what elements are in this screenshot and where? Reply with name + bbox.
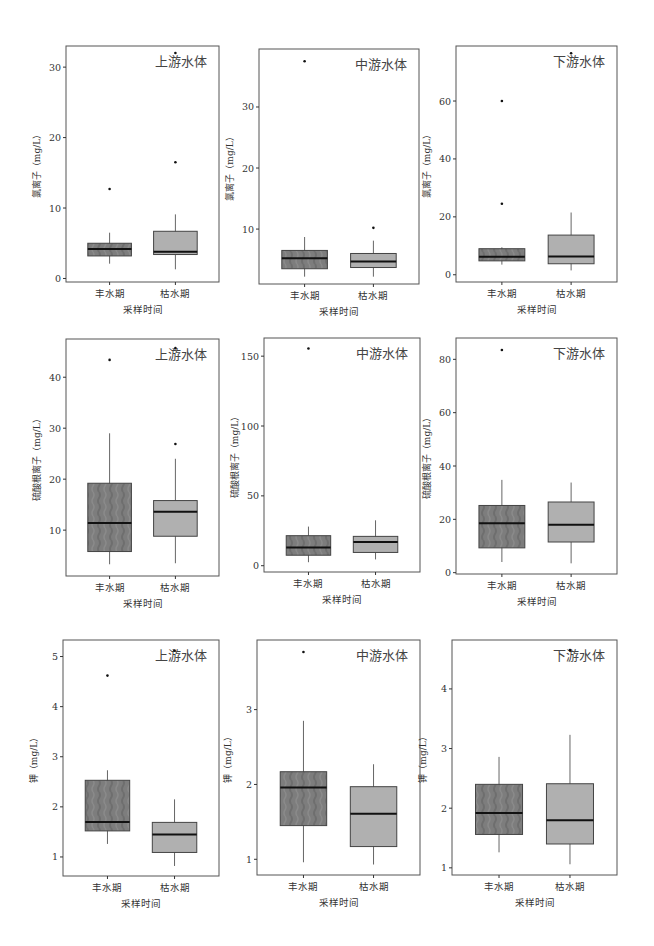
y-tick-label: 100	[241, 421, 259, 432]
x-tick-label: 丰水期	[487, 288, 517, 299]
y-tick-label: 50	[247, 490, 259, 501]
x-tick-label: 丰水期	[290, 290, 320, 301]
y-tick-label: 4	[52, 701, 58, 712]
iqr-box	[546, 784, 593, 844]
y-tick-label: 20	[439, 211, 451, 222]
boxplot-panel: 0204060氯离子（mg/L）下游水体丰水期枯水期采样时间	[421, 46, 617, 315]
outlier-point	[372, 227, 375, 230]
y-tick-label: 3	[52, 751, 58, 762]
y-tick-label: 4	[441, 683, 447, 694]
x-tick-label: 枯水期	[359, 881, 389, 892]
y-tick-label: 40	[439, 153, 451, 164]
x-tick-label: 丰水期	[293, 578, 323, 589]
y-tick-label: 10	[49, 203, 61, 214]
iqr-box	[280, 772, 326, 826]
iqr-box	[286, 536, 330, 556]
y-tick-label: 10	[49, 525, 61, 536]
y-tick-label: 2	[52, 801, 58, 812]
x-axis-label: 采样时间	[322, 594, 362, 605]
y-tick-label: 3	[441, 743, 447, 754]
y-axis-label: 硫酸根离子（mg/L）	[229, 412, 240, 498]
boxplot-panel: 12345钾（mg/L）上游水体丰水期枯水期采样时间	[28, 640, 219, 909]
iqr-box	[350, 787, 396, 847]
iqr-box	[479, 505, 525, 547]
iqr-box	[548, 235, 594, 264]
x-axis-label: 采样时间	[123, 598, 163, 609]
x-tick-label: 丰水期	[484, 881, 514, 892]
panel-title: 上游水体	[155, 347, 207, 362]
y-tick-label: 40	[49, 372, 61, 383]
y-tick-label: 150	[241, 351, 259, 362]
y-tick-label: 30	[242, 101, 254, 112]
y-tick-label: 1	[246, 854, 252, 865]
y-tick-label: 60	[439, 96, 451, 107]
x-axis-label: 采样时间	[319, 306, 359, 317]
boxplot-figure-grid: 0102030氯离子（mg/L）上游水体丰水期枯水期采样时间102030氯离子（…	[0, 0, 654, 946]
outlier-point	[108, 359, 111, 362]
y-tick-label: 30	[49, 62, 61, 73]
y-axis-label: 钾（mg/L）	[222, 732, 233, 782]
panel-title: 上游水体	[155, 54, 207, 69]
iqr-box	[88, 483, 132, 551]
x-tick-label: 丰水期	[95, 582, 125, 593]
iqr-box	[353, 536, 397, 552]
x-axis-label: 采样时间	[319, 897, 359, 908]
y-tick-label: 1	[52, 851, 58, 862]
y-tick-label: 30	[49, 423, 61, 434]
y-tick-label: 0	[445, 269, 451, 280]
x-axis-label: 采样时间	[121, 898, 161, 909]
outlier-point	[108, 188, 111, 191]
panel-title: 上游水体	[155, 648, 207, 663]
x-tick-label: 丰水期	[92, 882, 122, 893]
x-tick-label: 枯水期	[556, 288, 586, 299]
x-axis-label: 采样时间	[517, 596, 557, 607]
y-tick-label: 2	[441, 803, 447, 814]
iqr-box	[548, 502, 594, 542]
panel-title: 中游水体	[355, 57, 407, 72]
boxplot-panel: 1234钾（mg/L）下游水体丰水期枯水期采样时间	[417, 640, 617, 908]
panel-title: 中游水体	[356, 648, 408, 663]
iqr-box	[154, 501, 198, 537]
outlier-point	[174, 347, 177, 350]
outlier-point	[302, 651, 305, 654]
panel-title: 下游水体	[553, 648, 605, 663]
y-tick-label: 5	[52, 651, 58, 662]
y-tick-label: 60	[439, 407, 451, 418]
outlier-point	[501, 100, 504, 103]
y-tick-label: 1	[441, 862, 447, 873]
y-tick-label: 3	[246, 704, 252, 715]
panel-title: 中游水体	[356, 346, 408, 361]
y-tick-label: 10	[242, 224, 254, 235]
x-axis-label: 采样时间	[515, 897, 555, 908]
x-tick-label: 枯水期	[358, 290, 388, 301]
figure-canvas: 0102030氯离子（mg/L）上游水体丰水期枯水期采样时间102030氯离子（…	[0, 0, 654, 946]
x-tick-label: 丰水期	[95, 288, 125, 299]
y-tick-label: 40	[439, 461, 451, 472]
y-tick-label: 0	[55, 273, 61, 284]
boxplot-panel: 10203040硫酸根离子（mg/L）上游水体丰水期枯水期采样时间	[31, 339, 219, 609]
outlier-point	[501, 203, 504, 206]
x-tick-label: 枯水期	[361, 578, 391, 589]
y-axis-label: 钾（mg/L）	[417, 732, 428, 782]
y-axis-label: 氯离子（mg/L）	[421, 130, 432, 198]
outlier-point	[174, 52, 177, 55]
y-tick-label: 0	[253, 560, 259, 571]
iqr-box	[282, 250, 328, 268]
outlier-point	[174, 161, 177, 164]
x-axis-label: 采样时间	[123, 304, 163, 315]
iqr-box	[85, 780, 129, 831]
y-tick-label: 20	[439, 514, 451, 525]
y-axis-label: 硫酸根离子（mg/L）	[421, 413, 432, 499]
x-tick-label: 枯水期	[160, 882, 190, 893]
outlier-point	[307, 347, 310, 350]
outlier-point	[106, 674, 109, 677]
x-axis-label: 采样时间	[517, 304, 557, 315]
outlier-point	[501, 349, 504, 352]
plot-frame	[259, 49, 419, 284]
iqr-box	[479, 249, 525, 261]
x-tick-label: 枯水期	[556, 580, 586, 591]
x-tick-label: 枯水期	[160, 288, 190, 299]
x-tick-label: 丰水期	[487, 580, 517, 591]
y-tick-label: 20	[242, 163, 254, 174]
x-tick-label: 枯水期	[555, 881, 585, 892]
